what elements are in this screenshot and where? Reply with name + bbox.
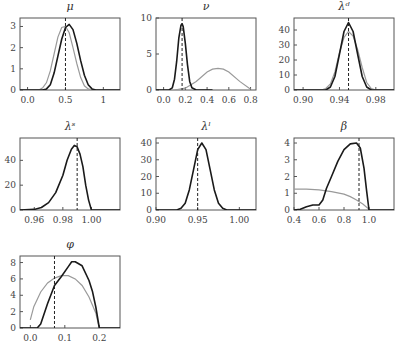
y-tick-label: 3 — [10, 21, 16, 31]
panel-mu: μ 0.00.510123 — [0, 0, 135, 118]
x-tick-label: 0.94 — [329, 95, 349, 105]
y-tick-label: 0 — [284, 85, 290, 95]
prior-density-curve — [20, 27, 120, 91]
x-tick-label: 0.2 — [178, 95, 192, 105]
prior-density-curve — [294, 32, 394, 91]
prior-density-curve — [30, 276, 99, 328]
plot-area: 0.00.10.202468 — [0, 238, 135, 349]
y-tick-label: 40 — [5, 155, 17, 165]
plot-area: 0.00.510123 — [0, 0, 135, 118]
x-tick-label: 0.98 — [53, 215, 73, 225]
y-tick-label: 5 — [146, 49, 152, 59]
x-tick-label: 0.96 — [24, 215, 44, 225]
y-tick-label: 0 — [146, 85, 152, 95]
panel-nu: ν 0.00.20.40.60.80510 — [136, 0, 271, 118]
y-tick-label: 1 — [284, 188, 290, 198]
posterior-density-curve — [294, 23, 394, 91]
plot-area: 0.00.20.40.60.80510 — [136, 0, 271, 118]
y-tick-label: 20 — [279, 55, 291, 65]
x-tick-label: 0.2 — [92, 333, 106, 343]
x-tick-label: 0.6 — [312, 215, 327, 225]
axes-frame — [20, 138, 120, 210]
x-tick-label: 0.4 — [200, 95, 215, 105]
y-tick-label: 4 — [10, 290, 16, 300]
plot-area: 0.960.981.0002040 — [0, 120, 135, 238]
posterior-density-curve — [294, 143, 394, 210]
x-tick-label: 1 — [100, 95, 106, 105]
panel-lambda-s: λˢ 0.960.981.0002040 — [0, 120, 135, 238]
y-tick-label: 30 — [279, 40, 291, 50]
panel-beta: β 0.40.60.81.001234 — [274, 120, 405, 238]
y-tick-label: 1 — [10, 64, 16, 74]
y-tick-label: 3 — [284, 155, 290, 165]
y-tick-label: 30 — [141, 155, 153, 165]
x-tick-label: 0.90 — [146, 215, 166, 225]
y-tick-label: 2 — [284, 172, 290, 182]
x-tick-label: 0.1 — [58, 333, 72, 343]
x-tick-label: 0.0 — [23, 333, 38, 343]
x-tick-label: 1.00 — [81, 215, 101, 225]
y-tick-label: 0 — [284, 205, 290, 215]
y-tick-label: 0 — [10, 85, 16, 95]
y-tick-label: 4 — [284, 138, 290, 148]
y-tick-label: 40 — [279, 25, 291, 35]
y-tick-label: 2 — [10, 43, 16, 53]
y-tick-label: 10 — [141, 188, 153, 198]
y-tick-label: 20 — [141, 172, 153, 182]
posterior-density-curve — [20, 262, 120, 328]
y-tick-label: 2 — [10, 307, 16, 317]
x-tick-label: 0.8 — [243, 95, 258, 105]
plot-area: 0.900.940.98010203040 — [274, 0, 405, 118]
y-tick-label: 0 — [10, 205, 16, 215]
y-tick-label: 0 — [10, 323, 16, 333]
x-tick-label: 0.95 — [188, 215, 208, 225]
y-tick-label: 10 — [279, 70, 291, 80]
posterior-density-curve — [20, 145, 120, 210]
posterior-density-curve — [156, 24, 213, 90]
posterior-density-curve — [156, 143, 256, 210]
axes-frame — [294, 18, 394, 90]
x-tick-label: 0.5 — [58, 95, 73, 105]
y-tick-label: 6 — [10, 274, 16, 284]
x-tick-label: 0.6 — [222, 95, 237, 105]
x-tick-label: 0.0 — [20, 95, 35, 105]
x-tick-label: 0.90 — [293, 95, 313, 105]
y-tick-label: 40 — [141, 138, 153, 148]
axes-frame — [20, 256, 120, 328]
x-tick-label: 0.0 — [156, 95, 171, 105]
y-tick-label: 20 — [5, 180, 17, 190]
x-tick-label: 1.00 — [229, 215, 249, 225]
plot-area: 0.40.60.81.001234 — [274, 120, 405, 238]
panel-phi: φ 0.00.10.202468 — [0, 238, 135, 349]
panel-lambda-l: λˡ 0.900.951.00010203040 — [136, 120, 271, 238]
x-tick-label: 1.0 — [362, 215, 377, 225]
y-tick-label: 0 — [146, 205, 152, 215]
x-tick-label: 0.4 — [287, 215, 302, 225]
axes-frame — [156, 18, 256, 90]
axes-frame — [20, 18, 120, 90]
prior-density-curve — [175, 68, 251, 90]
y-tick-label: 10 — [141, 13, 153, 23]
plot-area: 0.900.951.00010203040 — [136, 120, 271, 238]
x-tick-label: 0.8 — [337, 215, 352, 225]
y-tick-label: 8 — [10, 258, 16, 268]
panel-lambda-d: λᵈ 0.900.940.98010203040 — [274, 0, 405, 118]
x-tick-label: 0.98 — [366, 95, 386, 105]
